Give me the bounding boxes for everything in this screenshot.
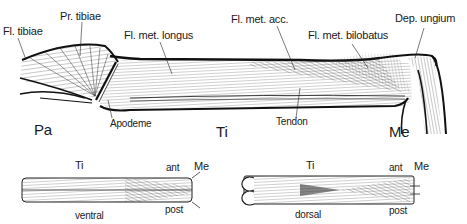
dorsal-label-metatarsus: Me — [414, 161, 429, 172]
label-apodeme: Apodeme — [110, 119, 151, 129]
dorsal-label-post: post — [389, 206, 407, 216]
label-pr-tibiae: Pr. tibiae — [60, 11, 101, 22]
leg-musculature-drawing — [0, 0, 467, 224]
label-fl-met-bilobatus: Fl. met. bilobatus — [308, 30, 388, 41]
label-tendon: Tendon — [276, 117, 308, 127]
ventral-label-ant: ant — [166, 163, 179, 173]
label-fl-tibiae: Fl. tibiae — [3, 26, 43, 37]
label-fl-met-acc: Fl. met. acc. — [231, 14, 288, 25]
label-segment-tibia: Ti — [216, 124, 228, 139]
ventral-label-metatarsus: Me — [194, 161, 209, 172]
label-dep-ungium: Dep. ungium — [395, 13, 455, 24]
ventral-label-tibia: Ti — [75, 160, 83, 171]
dorsal-view-title: dorsal — [295, 210, 321, 220]
ventral-view-title: ventral — [75, 211, 104, 221]
dorsal-label-tibia: Ti — [306, 160, 314, 171]
label-segment-metatarsus: Me — [389, 124, 409, 139]
label-fl-met-longus: Fl. met. longus — [124, 30, 193, 41]
patella-segment — [20, 45, 118, 103]
dorsal-view — [242, 176, 420, 205]
tibia-segment — [100, 54, 412, 111]
label-segment-patella: Pa — [34, 122, 52, 137]
ventral-view — [22, 172, 200, 208]
ventral-label-post: post — [165, 205, 183, 215]
dorsal-label-ant: ant — [389, 163, 402, 173]
